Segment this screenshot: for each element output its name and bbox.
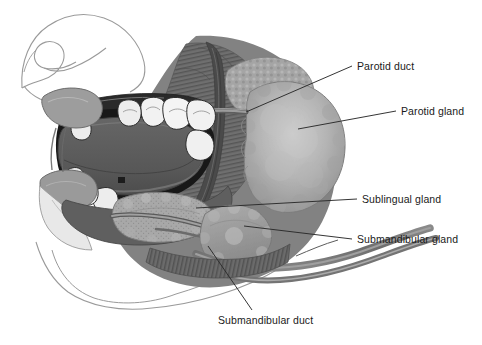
anatomy-illustration [0,0,482,345]
label-parotid-gland: Parotid gland [401,105,464,117]
label-submandibular-gland: Submandibular gland [357,233,458,245]
label-sublingual-gland: Sublingual gland [362,193,441,205]
salivary-gland-diagram: Parotid duct Parotid gland Sublingual gl… [0,0,482,345]
label-submandibular-duct: Submandibular duct [218,314,313,326]
label-parotid-duct: Parotid duct [357,60,414,72]
